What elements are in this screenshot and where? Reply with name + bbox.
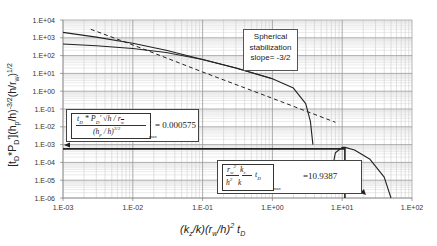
formula-subscript: max [273, 186, 281, 191]
left-arrow-head [64, 143, 70, 148]
y-axis-label: [tD*PD'](hp/h)-3/2(h/rw)1/2 [3, 40, 23, 190]
formula-tail: tD [255, 170, 261, 181]
x-tick-label: 1.E-01 [192, 204, 213, 211]
spherical-stabilization-note: Spherical stabilization slope= -3/2 [243, 29, 298, 71]
y-tick-label: 1.E-05 [34, 177, 55, 184]
x-tick-labels: 1.E-031.E-021.E-011.E+001.E+011.E+02 [53, 198, 424, 211]
x-axis-label: (kz/k)(rw/h)2 tD [180, 222, 245, 237]
y-tick-label: 1.E-06 [34, 195, 55, 202]
y-tick-label: 1.E+02 [33, 52, 55, 59]
y-tick-label: 1.E-02 [34, 123, 55, 130]
x-tick-label: 1.E+01 [331, 204, 353, 211]
max-time-value: =10.9387 [303, 171, 337, 181]
y-axis-label-text: [tD*PD'](hp/h)-3/2(h/rw)1/2 [6, 63, 21, 167]
x-tick-label: 1.E-02 [122, 204, 143, 211]
y-tick-label: 1.E+00 [33, 88, 55, 95]
max-derivative-value: = 0.000575 [155, 120, 196, 130]
y-tick-label: 1.E+01 [33, 70, 55, 77]
y-tick-label: 1.E-04 [34, 159, 55, 166]
x-tick-label: 1.E+02 [401, 204, 423, 211]
formula-numerator: rw2 kz [227, 164, 245, 175]
y-tick-label: 1.E+03 [33, 34, 55, 41]
max-time-formula-box: rw2 kz h2 k tD max =10.9387 [217, 160, 362, 194]
note-line-3: slope= -3/2 [244, 53, 297, 64]
x-tick-label: 1.E-03 [53, 204, 74, 211]
formula-denominator: (hp / h)3/2 [93, 126, 120, 137]
x-tick-label: 1.E+00 [261, 204, 283, 211]
max-derivative-formula-box: tD * PD' √h / rw (hp / h)3/2 max = 0.000… [66, 109, 199, 142]
note-line-2: stabilization [244, 43, 297, 54]
formula-subscript: max [149, 134, 157, 139]
formula-numerator: tD * PD' √h / rw [77, 114, 124, 125]
y-tick-label: 1.E-01 [34, 106, 55, 113]
note-line-1: Spherical [244, 32, 297, 43]
fraction-bar-2 [242, 175, 252, 176]
fraction-bar-1 [226, 175, 239, 176]
formula-denominator: h2 k [226, 177, 241, 187]
y-tick-labels: 1.E+041.E+031.E+021.E+011.E+001.E-011.E-… [33, 17, 63, 202]
y-tick-label: 1.E-03 [34, 141, 55, 148]
y-tick-label: 1.E+04 [33, 17, 55, 24]
